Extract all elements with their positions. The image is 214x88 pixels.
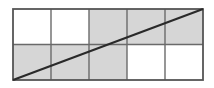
grid-cell-r1-c4 bbox=[165, 45, 203, 81]
grid-cell-r1-c3 bbox=[127, 45, 165, 81]
grid-cell-r1-c1 bbox=[51, 45, 89, 81]
grid-cell-r1-c0 bbox=[13, 45, 51, 81]
grid-cell-r0-c4 bbox=[165, 9, 203, 45]
shaded-grid-diagram bbox=[0, 0, 214, 88]
grid-cell-r0-c3 bbox=[127, 9, 165, 45]
grid-cell-r0-c1 bbox=[51, 9, 89, 45]
grid-cell-r0-c0 bbox=[13, 9, 51, 45]
figure-container bbox=[0, 0, 214, 88]
